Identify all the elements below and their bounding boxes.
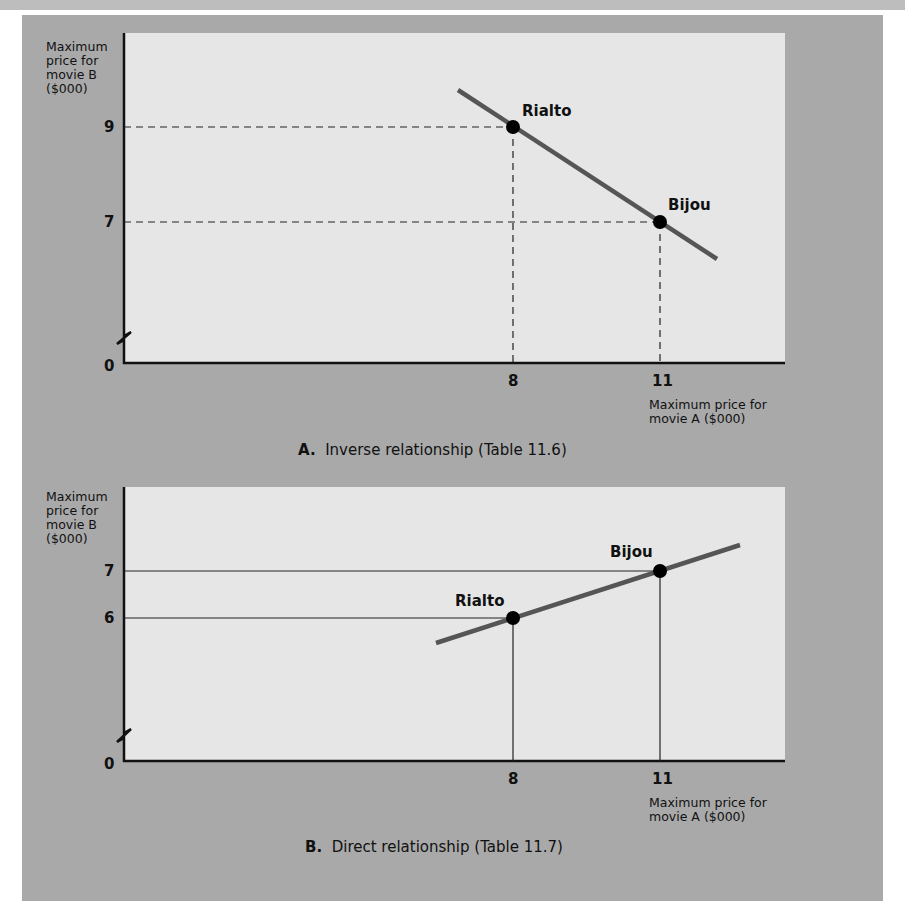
caption-text-b: Direct relationship (Table 11.7) <box>332 838 563 856</box>
point-bijou-a <box>653 215 667 229</box>
origin-label-b: 0 <box>104 755 114 773</box>
x-axis-label-b: Maximum price for movie A ($000) <box>649 796 767 824</box>
x-tick-11-b: 11 <box>652 770 673 788</box>
y-tick-9: 9 <box>104 118 114 136</box>
demand-line-a <box>458 90 717 259</box>
caption-text-a: Inverse relationship (Table 11.6) <box>325 441 567 459</box>
caption-b: B. Direct relationship (Table 11.7) <box>305 838 563 856</box>
chart-graphics <box>0 0 905 919</box>
label-bijou-a: Bijou <box>668 196 711 214</box>
y-tick-6-b: 6 <box>104 609 114 627</box>
y-axis-label-a: Maximum price for movie B ($000) <box>46 40 108 96</box>
caption-a: A. Inverse relationship (Table 11.6) <box>298 441 567 459</box>
y-tick-7: 7 <box>104 213 114 231</box>
x-axis-label-a: Maximum price for movie A ($000) <box>649 398 767 426</box>
origin-label-a: 0 <box>104 357 114 375</box>
caption-letter-a: A. <box>298 441 316 459</box>
x-tick-8-b: 8 <box>508 770 518 788</box>
caption-letter-b: B. <box>305 838 322 856</box>
x-label-line: movie A ($000) <box>649 412 767 426</box>
point-rialto-a <box>506 120 520 134</box>
label-bijou-b: Bijou <box>610 543 653 561</box>
panel-b-graphics <box>117 487 785 761</box>
y-label-line: Maximum <box>46 490 108 504</box>
label-rialto-b: Rialto <box>455 592 504 610</box>
x-label-line: movie A ($000) <box>649 810 767 824</box>
y-axis-label-b: Maximum price for movie B ($000) <box>46 490 108 546</box>
y-label-line: movie B <box>46 68 108 82</box>
point-bijou-b <box>653 564 667 578</box>
y-label-line: ($000) <box>46 82 108 96</box>
x-tick-8-a: 8 <box>508 372 518 390</box>
y-axis-b <box>117 487 785 761</box>
y-tick-7-b: 7 <box>104 562 114 580</box>
y-label-line: ($000) <box>46 532 108 546</box>
y-label-line: price for <box>46 54 108 68</box>
point-rialto-b <box>506 611 520 625</box>
x-label-line: Maximum price for <box>649 796 767 810</box>
x-label-line: Maximum price for <box>649 398 767 412</box>
y-label-line: price for <box>46 504 108 518</box>
y-label-line: Maximum <box>46 40 108 54</box>
x-tick-11-a: 11 <box>652 372 673 390</box>
label-rialto-a: Rialto <box>522 102 571 120</box>
y-label-line: movie B <box>46 518 108 532</box>
